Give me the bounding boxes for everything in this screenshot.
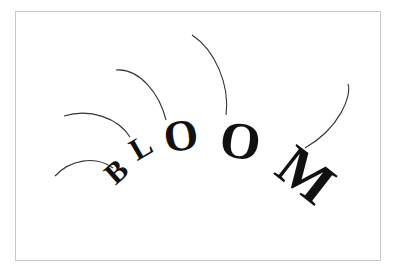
letter-o-second: O [216,110,264,172]
letter-b: B [97,152,134,190]
letter-o-first: O [161,109,202,162]
letter-l: L [123,127,158,168]
stem-o2 [192,35,227,115]
letters: B L O O M [97,109,347,217]
stem-l [64,113,130,137]
stem-o1 [116,70,166,120]
letter-m: M [264,132,347,217]
bloom-artwork: B L O O M [0,0,395,274]
